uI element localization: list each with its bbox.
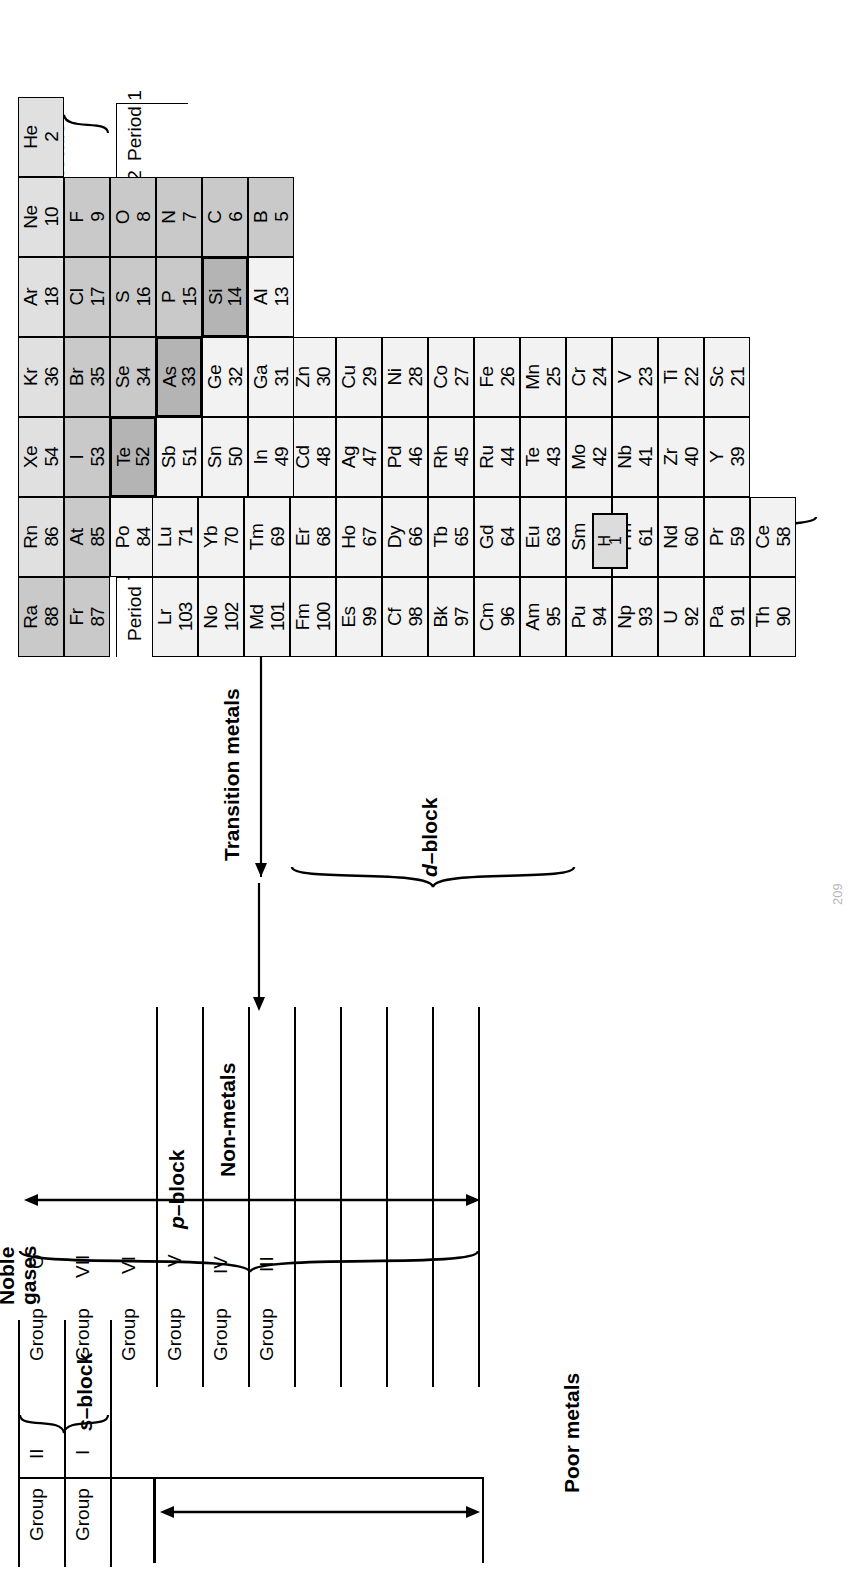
element-symbol: Zn	[293, 338, 312, 416]
element-cell-Fr[interactable]: Fr87	[64, 577, 110, 657]
element-cell-No[interactable]: No102	[198, 577, 244, 657]
element-symbol: S	[113, 258, 132, 336]
element-cell-Ti[interactable]: Ti22	[658, 337, 704, 417]
element-symbol: Se	[113, 338, 132, 416]
element-cell-Fm[interactable]: Fm100	[290, 577, 336, 657]
element-number: 10	[42, 178, 61, 256]
element-cell-Nb[interactable]: Nb41	[612, 417, 658, 497]
element-cell-U[interactable]: U92	[658, 577, 704, 657]
element-cell-Dy[interactable]: Dy66	[382, 497, 428, 577]
element-cell-At[interactable]: At85	[64, 497, 110, 577]
element-cell-Bk[interactable]: Bk97	[428, 577, 474, 657]
hydrogen-cell[interactable]: H1	[592, 513, 628, 569]
element-cell-Np[interactable]: Np93	[612, 577, 658, 657]
element-cell-Tb[interactable]: Tb65	[428, 497, 474, 577]
element-cell-Ge[interactable]: Ge32	[202, 337, 248, 417]
element-cell-Th[interactable]: Th90	[750, 577, 796, 657]
element-cell-Se[interactable]: Se34	[110, 337, 156, 417]
element-cell-As[interactable]: As33	[156, 337, 202, 417]
element-cell-F[interactable]: F9	[64, 177, 110, 257]
element-cell-Lr[interactable]: Lr103	[152, 577, 198, 657]
element-cell-Rh[interactable]: Rh45	[428, 417, 474, 497]
element-cell-Gd[interactable]: Gd64	[474, 497, 520, 577]
element-cell-Rn[interactable]: Rn86	[18, 497, 64, 577]
element-cell-Sb[interactable]: Sb51	[156, 417, 202, 497]
element-symbol: Te	[523, 418, 542, 496]
element-number: 24	[590, 338, 609, 416]
element-cell-N[interactable]: N7	[156, 177, 202, 257]
element-cell-C[interactable]: C6	[202, 177, 248, 257]
element-cell-Ho[interactable]: Ho67	[336, 497, 382, 577]
element-cell-Zr[interactable]: Zr40	[658, 417, 704, 497]
element-cell-Cr[interactable]: Cr24	[566, 337, 612, 417]
element-number: 103	[176, 578, 195, 656]
element-cell-B[interactable]: B5	[248, 177, 294, 257]
element-cell-Tm[interactable]: Tm69	[244, 497, 290, 577]
element-number: 96	[498, 578, 517, 656]
element-cell-Ra[interactable]: Ra88	[18, 577, 64, 657]
element-cell-Cd[interactable]: Cd48	[290, 417, 336, 497]
element-number: 50	[226, 418, 245, 496]
element-cell-Mn[interactable]: Mn25	[520, 337, 566, 417]
element-cell-Te[interactable]: Te43	[520, 417, 566, 497]
element-cell-Pa[interactable]: Pa91	[704, 577, 750, 657]
element-cell-Am[interactable]: Am95	[520, 577, 566, 657]
element-cell-Te[interactable]: Te52	[110, 417, 156, 497]
element-cell-Nd[interactable]: Nd60	[658, 497, 704, 577]
element-cell-Po[interactable]: Po84	[110, 497, 156, 577]
element-cell-Ni[interactable]: Ni28	[382, 337, 428, 417]
element-cell-Sc[interactable]: Sc21	[704, 337, 750, 417]
element-symbol: Si	[206, 259, 225, 335]
element-number: 25	[544, 338, 563, 416]
element-cell-Ne[interactable]: Ne10	[18, 177, 64, 257]
element-cell-Ag[interactable]: Ag47	[336, 417, 382, 497]
element-cell-P[interactable]: P15	[156, 257, 202, 337]
element-cell-I[interactable]: I53	[64, 417, 110, 497]
element-number: 9	[88, 178, 107, 256]
element-cell-Si[interactable]: Si14	[202, 257, 248, 337]
element-cell-Al[interactable]: Al13	[248, 257, 294, 337]
element-cell-O[interactable]: O8	[110, 177, 156, 257]
element-cell-Lu[interactable]: Lu71	[152, 497, 198, 577]
element-cell-Mo[interactable]: Mo42	[566, 417, 612, 497]
element-cell-Ce[interactable]: Ce58	[750, 497, 796, 577]
element-cell-Cm[interactable]: Cm96	[474, 577, 520, 657]
element-cell-Br[interactable]: Br35	[64, 337, 110, 417]
element-cell-Ru[interactable]: Ru44	[474, 417, 520, 497]
element-number: 86	[42, 498, 61, 576]
element-number: 94	[590, 578, 609, 656]
element-cell-Es[interactable]: Es99	[336, 577, 382, 657]
element-cell-Er[interactable]: Er68	[290, 497, 336, 577]
element-cell-Kr[interactable]: Kr36	[18, 337, 64, 417]
element-cell-Pu[interactable]: Pu94	[566, 577, 612, 657]
element-symbol: Pu	[569, 578, 588, 656]
element-symbol: Gd	[477, 498, 496, 576]
element-grid: He2Li3Be4B5C6N7O8F9Ne10Na11Mg12Al13Si14P…	[0, 0, 848, 1577]
element-cell-Fe[interactable]: Fe26	[474, 337, 520, 417]
element-cell-Xe[interactable]: Xe54	[18, 417, 64, 497]
element-cell-Cf[interactable]: Cf98	[382, 577, 428, 657]
element-cell-Zn[interactable]: Zn30	[290, 337, 336, 417]
element-cell-Cu[interactable]: Cu29	[336, 337, 382, 417]
element-cell-Ar[interactable]: Ar18	[18, 257, 64, 337]
element-symbol: Ge	[205, 338, 224, 416]
element-cell-Cl[interactable]: Cl17	[64, 257, 110, 337]
element-cell-Ga[interactable]: Ga31	[248, 337, 294, 417]
element-number: 63	[544, 498, 563, 576]
element-number: 91	[728, 578, 747, 656]
element-cell-He[interactable]: He2	[18, 97, 64, 177]
element-cell-Sn[interactable]: Sn50	[202, 417, 248, 497]
element-cell-Md[interactable]: Md101	[244, 577, 290, 657]
element-cell-In[interactable]: In49	[248, 417, 294, 497]
element-number: 47	[360, 418, 379, 496]
element-cell-Y[interactable]: Y39	[704, 417, 750, 497]
element-cell-Eu[interactable]: Eu63	[520, 497, 566, 577]
element-cell-Yb[interactable]: Yb70	[198, 497, 244, 577]
element-cell-S[interactable]: S16	[110, 257, 156, 337]
element-symbol: Fm	[293, 578, 312, 656]
element-cell-V[interactable]: V23	[612, 337, 658, 417]
element-cell-Pr[interactable]: Pr59	[704, 497, 750, 577]
element-number: 16	[134, 258, 153, 336]
element-cell-Co[interactable]: Co27	[428, 337, 474, 417]
element-cell-Pd[interactable]: Pd46	[382, 417, 428, 497]
